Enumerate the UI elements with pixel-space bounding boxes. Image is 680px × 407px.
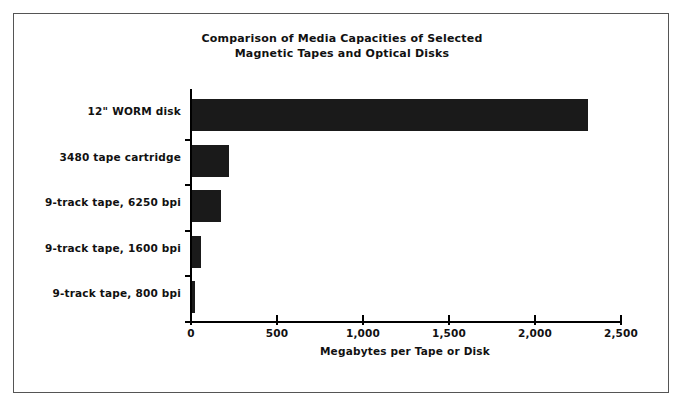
- x-axis-tick-label: 1,000: [346, 327, 380, 339]
- bar: [192, 99, 588, 131]
- y-axis-tick-label: 9-track tape, 1600 bpi: [45, 242, 181, 254]
- figure-border: Comparison of Media Capacities of Select…: [13, 13, 669, 393]
- x-axis-tick-label: 1,500: [432, 327, 466, 339]
- bar-row: 9-track tape, 800 bpi: [190, 275, 620, 321]
- x-axis-tick-label: 500: [266, 327, 289, 339]
- x-axis-tick-label: 2,500: [604, 327, 638, 339]
- bar: [192, 281, 195, 313]
- y-axis-tick-label: 9-track tape, 6250 bpi: [45, 196, 181, 208]
- bar: [192, 236, 201, 268]
- plot-area: 12" WORM disk3480 tape cartridge9-track …: [190, 93, 620, 321]
- y-axis-tick-mark: [185, 275, 192, 277]
- y-axis-tick-label: 12" WORM disk: [88, 105, 181, 117]
- x-axis-tick-mark: [190, 315, 192, 325]
- x-axis-tick-label: 2,000: [518, 327, 552, 339]
- y-axis-tick-mark: [185, 230, 192, 232]
- x-axis-tick-label: 0: [187, 327, 195, 339]
- bar-row: 3480 tape cartridge: [190, 139, 620, 185]
- bar: [192, 145, 229, 177]
- bar-row: 9-track tape, 6250 bpi: [190, 184, 620, 230]
- bar: [192, 190, 221, 222]
- chart-figure: Comparison of Media Capacities of Select…: [0, 0, 680, 407]
- x-axis-title: Megabytes per Tape or Disk: [190, 345, 620, 357]
- x-axis-tick-mark: [276, 315, 278, 325]
- y-axis-tick-label: 3480 tape cartridge: [59, 151, 181, 163]
- bar-row: 9-track tape, 1600 bpi: [190, 230, 620, 276]
- x-axis-tick-mark: [534, 315, 536, 325]
- x-axis-tick-mark: [362, 315, 364, 325]
- bar-row: 12" WORM disk: [190, 93, 620, 139]
- y-axis-tick-mark: [185, 139, 192, 141]
- chart-title: Comparison of Media Capacities of Select…: [14, 31, 670, 61]
- x-axis-line: [190, 321, 621, 323]
- y-axis-tick-label: 9-track tape, 800 bpi: [52, 287, 181, 299]
- x-axis-tick-mark: [620, 315, 622, 325]
- x-axis-tick-mark: [448, 315, 450, 325]
- y-axis-tick-mark: [185, 184, 192, 186]
